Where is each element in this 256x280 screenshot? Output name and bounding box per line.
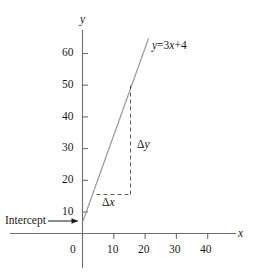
x-tick-label-0: 0: [70, 244, 76, 256]
y-tick-label-20: 20: [62, 174, 74, 186]
plot-background: [0, 0, 256, 280]
delta-x-variable: x: [109, 196, 114, 208]
x-axis-label: x: [238, 228, 243, 240]
x-tick-label-20: 20: [138, 244, 150, 256]
delta-x-label: Δx: [102, 197, 115, 209]
x-tick-label-30: 30: [169, 244, 181, 256]
linear-function-graph: [0, 0, 256, 280]
y-tick-label-40: 40: [62, 111, 74, 123]
y-tick-label-10: 10: [62, 206, 74, 218]
delta-y-label: Δy: [137, 139, 150, 151]
y-tick-label-50: 50: [62, 79, 74, 91]
x-tick-label-10: 10: [107, 244, 119, 256]
y-axis-label: y: [80, 14, 85, 26]
x-tick-label-40: 40: [200, 244, 212, 256]
y-tick-label-30: 30: [62, 142, 74, 154]
intercept-label: Intercept: [5, 215, 46, 227]
equation-label: y=3x+4: [152, 40, 187, 52]
equation-constant: 4: [181, 39, 187, 51]
delta-y-variable: y: [144, 138, 149, 150]
y-tick-label-60: 60: [62, 47, 74, 59]
